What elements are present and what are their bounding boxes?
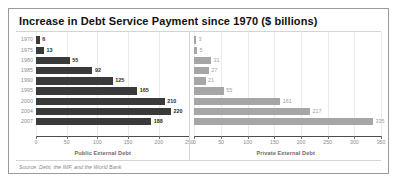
category-label: 1985 <box>16 68 36 73</box>
bar-row: 217 <box>190 106 381 116</box>
bar-track: 55 <box>194 86 381 96</box>
bar-value-label: 210 <box>167 99 176 104</box>
axis-tick-label: 300 <box>350 140 359 145</box>
bar-value-label: 92 <box>95 68 101 73</box>
bar-value-label: 188 <box>154 119 163 124</box>
bar <box>36 118 151 125</box>
axis-pad-public <box>16 136 36 151</box>
bar <box>194 47 197 54</box>
plot-area: 1970619751319805519859219901251995165200… <box>16 31 381 160</box>
chart-title-bar: Increase in Debt Service Payment since 1… <box>9 9 388 31</box>
bar <box>36 47 44 54</box>
bar-track: 188 <box>36 117 189 127</box>
axis-baseline-public <box>36 136 189 137</box>
bar-track: 217 <box>194 106 381 116</box>
chart-figure: Increase in Debt Service Payment since 1… <box>8 8 389 174</box>
category-label: 1975 <box>16 48 36 53</box>
bar-row: 5 <box>190 45 381 55</box>
bar-row: 31 <box>190 55 381 65</box>
axis-tick-label: 150 <box>124 140 133 145</box>
bar-track: 165 <box>36 86 189 96</box>
panel-private-external-debt: 3531272155161217335 05010015020025030035… <box>189 32 381 160</box>
category-label: 1980 <box>16 58 36 63</box>
axis-tick-label: 350 <box>377 140 386 145</box>
axis-line-public: 050100150200250 <box>36 136 189 151</box>
bar-track: 5 <box>194 45 381 55</box>
bar-row: 335 <box>190 117 381 127</box>
bars-private: 3531272155161217335 <box>190 32 381 136</box>
bar-value-label: 27 <box>211 68 217 73</box>
bar <box>36 98 165 105</box>
category-label: 1970 <box>16 37 36 42</box>
panel-public-external-debt: 1970619751319805519859219901251995165200… <box>16 32 189 160</box>
bar-value-label: 125 <box>115 78 124 83</box>
bar-track: 210 <box>36 96 189 106</box>
bar-row: 55 <box>190 86 381 96</box>
axis-tick-label: 250 <box>323 140 332 145</box>
bar-track: 6 <box>36 35 189 45</box>
bar-row: 3 <box>190 35 381 45</box>
page-title: Increase in Debt Service Payment since 1… <box>19 15 388 27</box>
axis-tick-label: 150 <box>270 140 279 145</box>
bar-value-label: 55 <box>72 58 78 63</box>
bar-value-label: 165 <box>140 88 149 93</box>
chart-footer: Source: Debt, the IMF, and the World Ban… <box>16 160 381 173</box>
bar-row: 198592 <box>16 66 189 76</box>
bar-row: 197513 <box>16 45 189 55</box>
source-note: Source: Debt, the IMF, and the World Ban… <box>19 165 381 170</box>
axis-line-private: 050100150200250300350 <box>194 136 381 151</box>
bar-row: 1990125 <box>16 76 189 86</box>
axis-tick-label: 200 <box>297 140 306 145</box>
bar-track: 161 <box>194 96 381 106</box>
bar <box>194 98 280 105</box>
bar-track: 335 <box>194 117 381 127</box>
x-axis-private: 050100150200250300350 <box>190 136 381 151</box>
axis-tick-label: 50 <box>218 140 224 145</box>
bar-value-label: 217 <box>313 109 322 114</box>
bar <box>194 87 223 94</box>
bar <box>36 77 113 84</box>
bar-track: 27 <box>194 66 381 76</box>
x-axis-public: 050100150200250 <box>16 136 189 151</box>
axis-tick-label: 100 <box>243 140 252 145</box>
bar-track: 31 <box>194 55 381 65</box>
axis-tick-label: 200 <box>154 140 163 145</box>
bar-value-label: 335 <box>376 119 385 124</box>
category-label: 1990 <box>16 78 36 83</box>
bar-row: 161 <box>190 96 381 106</box>
axis-tick-label: 100 <box>93 140 102 145</box>
bar-row: 2000210 <box>16 96 189 106</box>
bar-track: 220 <box>36 106 189 116</box>
bar-value-label: 21 <box>208 78 214 83</box>
bar <box>194 57 211 64</box>
bar-value-label: 31 <box>213 58 219 63</box>
bar <box>36 108 171 115</box>
bars-public: 1970619751319805519859219901251995165200… <box>16 32 189 136</box>
bar-value-label: 3 <box>198 37 201 42</box>
bar-row: 21 <box>190 76 381 86</box>
bar-track: 125 <box>36 76 189 86</box>
bar <box>36 57 70 64</box>
bar <box>194 118 373 125</box>
x-axis-title-public: Public External Debt <box>16 151 189 160</box>
bar-track: 3 <box>194 35 381 45</box>
bar-track: 92 <box>36 66 189 76</box>
category-label: 2004 <box>16 109 36 114</box>
bar-row: 2004220 <box>16 106 189 116</box>
bar-row: 198055 <box>16 55 189 65</box>
axis-tick-label: 0 <box>35 140 38 145</box>
bar-track: 21 <box>194 76 381 86</box>
bar-value-label: 13 <box>46 48 52 53</box>
bar <box>194 67 208 74</box>
x-axis-title-private: Private External Debt <box>190 151 381 160</box>
bar-value-label: 5 <box>200 48 203 53</box>
axis-tick-label: 50 <box>64 140 70 145</box>
bar-value-label: 220 <box>173 109 182 114</box>
bar-track: 13 <box>36 45 189 55</box>
bar <box>194 108 310 115</box>
bar <box>194 77 205 84</box>
bar-row: 19706 <box>16 35 189 45</box>
bar-row: 2007188 <box>16 117 189 127</box>
bar-track: 55 <box>36 55 189 65</box>
bar-value-label: 6 <box>42 37 45 42</box>
